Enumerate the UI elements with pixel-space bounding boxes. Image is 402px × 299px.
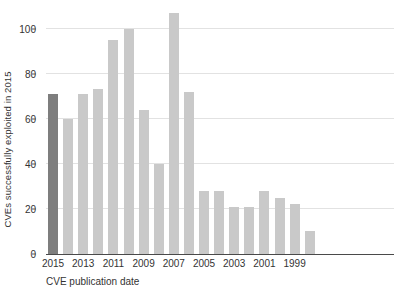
- x-tick-label: 2015: [42, 258, 64, 269]
- x-tick-label: 1999: [283, 258, 305, 269]
- bar-2004: [214, 191, 224, 254]
- bar-2011: [108, 40, 118, 254]
- y-tick-mark: [32, 254, 36, 255]
- x-tick-label: 2001: [253, 258, 275, 269]
- x-tick-label: 2003: [223, 258, 245, 269]
- y-tick-mark: [32, 73, 36, 74]
- bar-2013: [78, 94, 88, 254]
- plot-area: [46, 6, 394, 254]
- x-tick-label: 2005: [193, 258, 215, 269]
- bar-1998: [305, 231, 315, 254]
- bar-2015: [48, 94, 58, 254]
- bar-2007: [169, 13, 179, 254]
- bar-1999: [290, 204, 300, 254]
- y-axis-ticks: 020406080100: [0, 6, 42, 254]
- y-tick-mark: [32, 118, 36, 119]
- x-axis-title: CVE publication date: [46, 276, 139, 287]
- x-axis-tick-labels: 201520132011200920072005200320011999: [46, 258, 394, 272]
- bar-2000: [275, 198, 285, 254]
- bar-2014: [63, 119, 73, 254]
- bar-2009: [139, 110, 149, 254]
- x-axis-line: [46, 254, 394, 255]
- bar-2001: [259, 191, 269, 254]
- x-tick-label: 2007: [163, 258, 185, 269]
- bar-2003: [229, 207, 239, 254]
- y-tick-mark: [32, 28, 36, 29]
- x-tick-label: 2013: [72, 258, 94, 269]
- bar-2006: [184, 92, 194, 254]
- bar-2008: [154, 164, 164, 254]
- y-tick-mark: [32, 208, 36, 209]
- cve-exploited-bar-chart: CVEs successfully exploited in 2015 0204…: [0, 0, 402, 299]
- bar-2012: [93, 89, 103, 254]
- bar-2010: [124, 29, 134, 254]
- x-tick-label: 2011: [103, 258, 125, 269]
- bar-2005: [199, 191, 209, 254]
- bar-2002: [244, 207, 254, 254]
- y-tick-mark: [32, 163, 36, 164]
- bar-series: [46, 6, 394, 254]
- x-tick-label: 2009: [132, 258, 154, 269]
